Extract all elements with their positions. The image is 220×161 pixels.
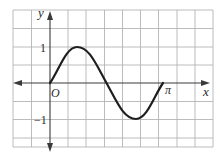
y-axis-label: y (36, 5, 44, 20)
x-axis-label: x (202, 84, 209, 99)
pi-tick-label: π (165, 83, 172, 97)
sine-graph: y x O π 1 −1 (0, 0, 220, 161)
x-axis (13, 80, 210, 86)
x-axis-left-arrow-icon (13, 80, 22, 86)
y-axis-up-arrow-icon (47, 11, 53, 20)
origin-label: O (51, 86, 60, 100)
y-tick-label-minus-1: −1 (34, 113, 47, 127)
y-axis-down-arrow-icon (47, 143, 53, 152)
y-tick-label-1: 1 (40, 41, 46, 55)
